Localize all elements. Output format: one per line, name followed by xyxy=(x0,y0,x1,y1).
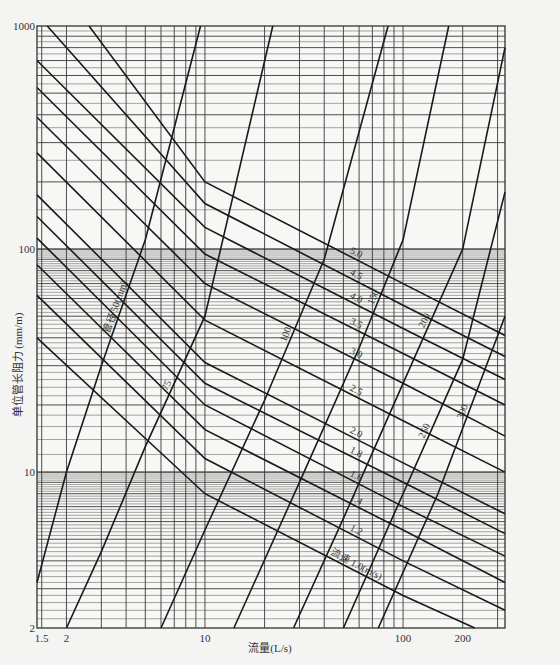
y-tick-label: 100 xyxy=(19,243,36,255)
x-tick-label: 100 xyxy=(395,632,412,644)
y-axis-title: 单位管长阻力 (mm/m) xyxy=(11,312,25,417)
hydraulic-friction-chart: 管径 50(mm)75100150200250300流速 1.0(m/s)1.2… xyxy=(0,0,560,665)
y-tick-label: 2 xyxy=(30,622,36,634)
y-tick-label: 1000 xyxy=(13,20,36,32)
y-tick-label: 10 xyxy=(24,466,36,478)
x-tick-label: 1.5 xyxy=(35,632,49,644)
x-axis-title: 流量(L/s) xyxy=(248,641,292,655)
x-tick-label: 2 xyxy=(64,632,70,644)
x-tick-label: 10 xyxy=(199,632,211,644)
x-tick-label: 200 xyxy=(454,632,471,644)
